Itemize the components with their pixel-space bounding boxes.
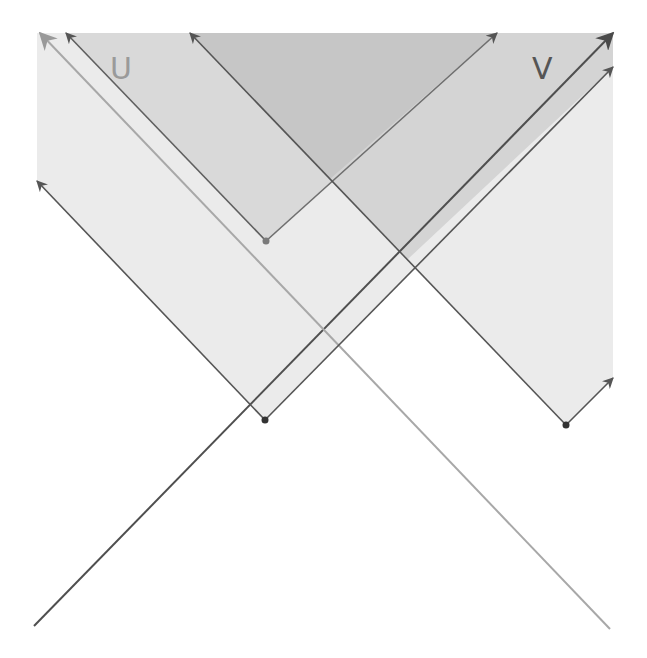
event-point-p3 bbox=[563, 422, 570, 429]
event-point-p1 bbox=[263, 238, 270, 245]
spacetime-diagram: U V bbox=[0, 0, 647, 658]
label-v: V bbox=[532, 51, 553, 86]
event-point-p2 bbox=[262, 417, 269, 424]
label-u: U bbox=[110, 51, 132, 86]
